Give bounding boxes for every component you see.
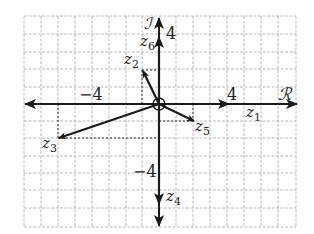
label-z6: z6: [139, 32, 155, 53]
tick-x-pos: 4: [227, 85, 237, 104]
real-axis-label: ℛ: [278, 84, 293, 104]
complex-plane-diagram: ℛ ℐ −4 4 4 −4 z1 z2 z3 z4 z5 z6: [0, 0, 314, 234]
label-z2: z2: [123, 50, 139, 71]
label-z3: z3: [41, 134, 57, 155]
tick-y-pos: 4: [166, 24, 176, 43]
tick-x-neg: −4: [79, 85, 103, 104]
imag-axis-label: ℐ: [144, 14, 154, 33]
label-z1: z1: [245, 103, 261, 124]
tick-y-neg: −4: [133, 162, 157, 181]
label-z5: z5: [194, 117, 210, 138]
